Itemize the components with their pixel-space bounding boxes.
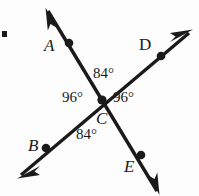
point-dot-D xyxy=(157,52,166,61)
point-label-a: A xyxy=(44,37,54,54)
angle-label-top: 84° xyxy=(93,66,114,81)
angle-label-bottom: 84° xyxy=(76,127,97,142)
point-label-b: B xyxy=(28,137,38,154)
point-label-d: D xyxy=(139,36,151,53)
edge-mark-artifact xyxy=(2,31,7,37)
point-dot-E xyxy=(137,151,146,160)
angle-label-right: 96° xyxy=(113,90,134,105)
point-label-c: C xyxy=(96,110,107,127)
point-dot-B xyxy=(42,144,51,153)
geometry-diagram: A B C D E 84° 96° 96° 84° xyxy=(0,0,199,196)
diagram-canvas xyxy=(0,0,199,196)
angle-label-left: 96° xyxy=(62,90,83,105)
arrowhead-A-end xyxy=(46,8,57,31)
arrowhead-E-end xyxy=(149,173,160,196)
point-dot-C xyxy=(97,95,106,104)
point-dot-A xyxy=(65,39,74,48)
point-label-e: E xyxy=(124,158,134,175)
